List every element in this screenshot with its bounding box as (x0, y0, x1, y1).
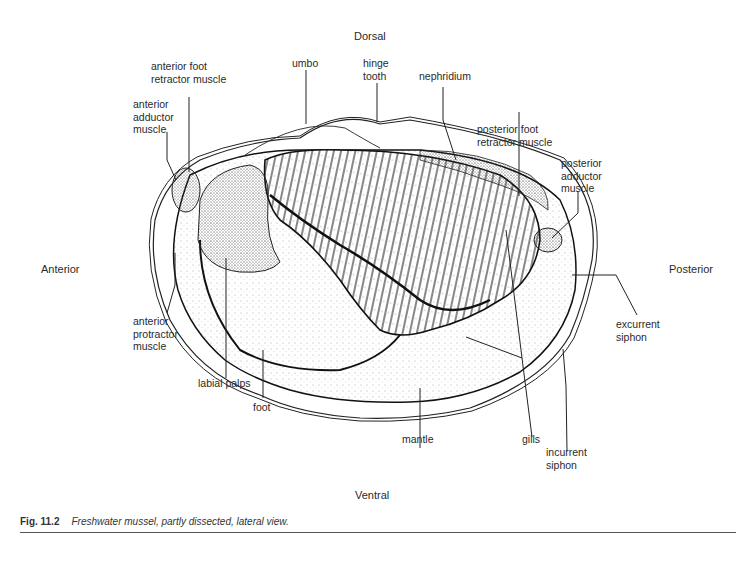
label-labial-palps: labial palps (198, 377, 251, 390)
figure-caption-text: Freshwater mussel, partly dissected, lat… (71, 516, 288, 527)
dorsal-label: Dorsal (354, 30, 386, 42)
figure-caption: Fig. 11.2Freshwater mussel, partly disse… (20, 516, 289, 527)
posterior-label: Posterior (669, 263, 713, 275)
label-anterior-protractor: anterior protractor muscle (133, 315, 178, 353)
label-excurrent-siphon: excurrent siphon (616, 318, 660, 343)
label-mantle: mantle (402, 433, 434, 446)
figure-number: Fig. 11.2 (20, 516, 59, 527)
label-incurrent-siphon: incurrent siphon (546, 446, 587, 471)
anterior-adductor-muscle (172, 168, 200, 212)
label-posterior-foot-retractor: posterior foot retractor muscle (477, 123, 552, 148)
anterior-label: Anterior (41, 263, 80, 275)
label-nephridium: nephridium (419, 70, 471, 83)
label-foot: foot (253, 401, 271, 414)
label-umbo: umbo (292, 57, 318, 70)
label-anterior-foot-retractor: anterior foot retractor muscle (151, 60, 226, 85)
posterior-adductor-muscle (534, 228, 562, 252)
caption-rule (20, 532, 736, 533)
label-gills: gills (522, 433, 540, 446)
mussel-illustration (0, 0, 754, 562)
label-hinge-tooth: hinge tooth (363, 57, 389, 82)
label-anterior-adductor: anterior adductor muscle (133, 98, 174, 136)
label-posterior-adductor: posterior adductor muscle (561, 157, 602, 195)
ventral-label: Ventral (355, 489, 389, 501)
